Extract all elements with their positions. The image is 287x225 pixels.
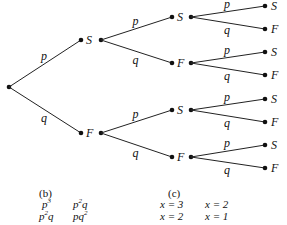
branch-label-p: p: [223, 90, 230, 104]
node-label-F: F: [85, 126, 94, 140]
leaf-label-S: S: [271, 45, 277, 59]
leaf-label-F: F: [270, 68, 279, 82]
panel-c-r2c1: x = 2: [160, 210, 183, 222]
tree-node-dot: [79, 131, 84, 136]
node-label-S: S: [86, 33, 92, 47]
tree-node-dot: [170, 155, 175, 160]
tree-node-dot: [170, 108, 175, 113]
branch-label-q: q: [41, 111, 47, 125]
node-label-S: S: [177, 103, 183, 117]
tree-node-dot: [263, 120, 268, 125]
leaf-label-S: S: [271, 92, 277, 106]
leaf-label-S: S: [271, 138, 277, 152]
node-label-F: F: [176, 56, 185, 70]
tree-node-dot: [263, 73, 268, 78]
branch-label-p: p: [132, 14, 139, 28]
tree-node-dot: [263, 166, 268, 171]
branch-label-p: p: [223, 0, 230, 11]
panel-c-r2c2: x = 1: [205, 210, 228, 222]
branch-label-p: p: [132, 107, 139, 121]
panel-c-r1c2: x = 2: [205, 198, 228, 210]
leaf-label-F: F: [270, 22, 279, 36]
tree-node-dot: [263, 50, 268, 55]
tree-node-dot: [263, 27, 268, 32]
panel-b-r2c2: pq2: [73, 210, 88, 222]
branch-label-q: q: [133, 146, 139, 160]
branch-label-q: q: [224, 69, 230, 83]
leaf-label-S: S: [271, 0, 277, 13]
branch-label-q: q: [224, 116, 230, 130]
tree-node-dot: [263, 97, 268, 102]
tree-branch: [9, 40, 81, 87]
branch-label-q: q: [224, 23, 230, 37]
leaf-label-F: F: [270, 161, 279, 175]
panel-c-r1c1: x = 3: [160, 198, 183, 210]
tree-node-dot: [79, 38, 84, 43]
panel-b-r2c1: p2q: [39, 210, 54, 222]
tree-node-dot: [263, 143, 268, 148]
branch-label-q: q: [224, 163, 230, 177]
tree-node-dot: [263, 4, 268, 9]
branch-label-q: q: [133, 53, 139, 67]
leaf-label-F: F: [270, 115, 279, 129]
node-label-F: F: [176, 150, 185, 164]
branch-label-p: p: [40, 49, 47, 63]
node-label-S: S: [177, 10, 183, 24]
tree-node-dot: [170, 61, 175, 66]
tree-node-dot: [170, 15, 175, 20]
branch-label-p: p: [223, 136, 230, 150]
branch-label-p: p: [223, 43, 230, 57]
tree-branch: [9, 87, 81, 133]
